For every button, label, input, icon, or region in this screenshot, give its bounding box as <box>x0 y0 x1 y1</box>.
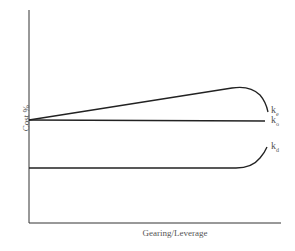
kd-label: kd <box>271 140 279 153</box>
y-axis-label: Cost % <box>21 88 31 148</box>
ke-curve <box>29 87 268 120</box>
ko-line <box>29 120 265 121</box>
chart-canvas <box>0 0 295 251</box>
x-axis-label: Gearing/Leverage <box>100 228 250 238</box>
kd-curve <box>29 147 267 168</box>
ko-label: ko <box>271 114 279 127</box>
